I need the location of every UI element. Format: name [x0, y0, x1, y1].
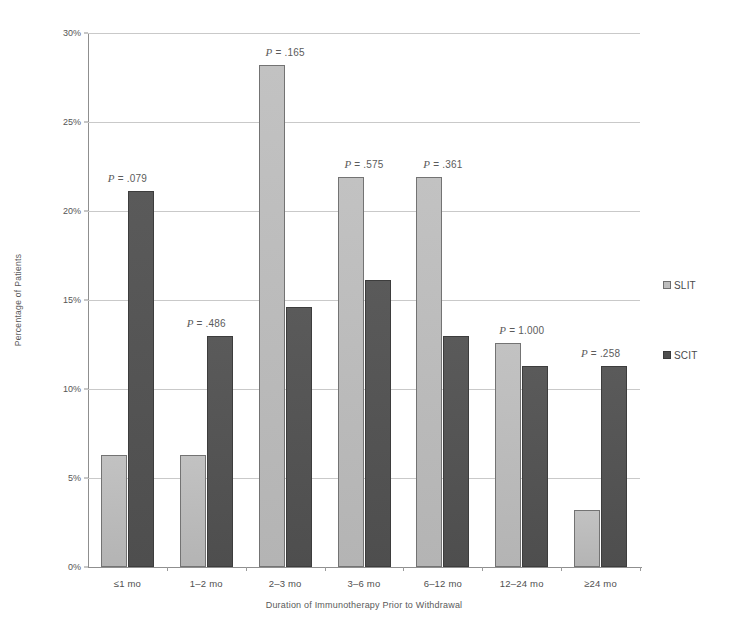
legend-swatch-icon: [663, 351, 671, 359]
p-symbol: P: [344, 158, 351, 170]
legend-label: SCIT: [674, 350, 698, 361]
x-axis-tick-mark: [640, 567, 641, 571]
p-symbol: P: [581, 347, 588, 359]
x-axis-tick-mark: [246, 567, 247, 571]
p-value-label: P = 1.000: [499, 324, 544, 336]
p-symbol: P: [108, 172, 115, 184]
legend-label: SLIT: [674, 280, 696, 291]
x-axis-tick-label: ≤1 mo: [114, 578, 141, 589]
bar-slit: [416, 177, 442, 567]
p-value-label: P = .575: [344, 158, 383, 170]
bar-group: [495, 33, 548, 567]
y-axis-tick-label: 20%: [63, 206, 81, 216]
bar-slit: [259, 65, 285, 567]
x-axis-tick-mark: [482, 567, 483, 571]
p-symbol: P: [266, 46, 273, 58]
p-value-label: P = .258: [581, 347, 620, 359]
bar-group: [338, 33, 391, 567]
x-axis-tick-mark: [561, 567, 562, 571]
legend-swatch-icon: [663, 281, 671, 289]
y-axis-tick-mark: [84, 478, 88, 479]
y-axis-tick-label: 30%: [63, 28, 81, 38]
x-axis-tick-label: 2–3 mo: [269, 578, 302, 589]
y-axis-tick-mark: [84, 300, 88, 301]
p-symbol: P: [187, 317, 194, 329]
bar-scit: [601, 366, 627, 567]
plot-area: 0%5%10%15%20%25%30%: [88, 33, 640, 567]
bar-group: [180, 33, 233, 567]
legend-item-slit[interactable]: SLIT: [663, 278, 739, 292]
bar-slit: [495, 343, 521, 567]
y-axis-tick-mark: [84, 389, 88, 390]
chart-legend: SLITSCIT: [663, 278, 739, 418]
bar-scit: [128, 191, 154, 567]
x-axis-tick-label: ≥24 mo: [584, 578, 617, 589]
y-axis-tick-label: 0%: [68, 562, 81, 572]
y-axis-tick-label: 25%: [63, 117, 81, 127]
y-axis-tick-label: 5%: [68, 473, 81, 483]
y-axis-tick-mark: [84, 122, 88, 123]
bar-slit: [180, 455, 206, 567]
y-axis-title: Percentage of Patients: [13, 254, 23, 347]
y-axis-tick-mark: [84, 211, 88, 212]
bar-scit: [365, 280, 391, 567]
x-axis-tick-mark: [167, 567, 168, 571]
p-value-label: P = .165: [266, 46, 305, 58]
bar-scit: [286, 307, 312, 567]
y-axis-tick-mark: [84, 567, 88, 568]
gridline: [88, 567, 640, 568]
bar-chart-figure: Percentage of Patients 0%5%10%15%20%25%3…: [0, 0, 742, 626]
x-axis-tick-label: 3–6 mo: [348, 578, 381, 589]
bar-scit: [522, 366, 548, 567]
bar-slit: [338, 177, 364, 567]
bar-group: [259, 33, 312, 567]
x-axis-tick-label: 12–24 mo: [500, 578, 544, 589]
p-symbol: P: [499, 324, 506, 336]
bar-scit: [207, 336, 233, 567]
x-axis-tick-label: 6–12 mo: [424, 578, 462, 589]
x-axis-title: Duration of Immunotherapy Prior to Withd…: [266, 600, 463, 610]
bar-group: [574, 33, 627, 567]
y-axis-tick-label: 10%: [63, 384, 81, 394]
x-axis-tick-mark: [403, 567, 404, 571]
y-axis-tick-label: 15%: [63, 295, 81, 305]
x-axis-tick-mark: [325, 567, 326, 571]
bar-group: [101, 33, 154, 567]
bar-slit: [574, 510, 600, 567]
x-axis-tick-label: 1–2 mo: [190, 578, 223, 589]
p-symbol: P: [423, 158, 430, 170]
legend-item-scit[interactable]: SCIT: [663, 348, 739, 362]
bar-scit: [443, 336, 469, 567]
p-value-label: P = .486: [187, 317, 226, 329]
y-axis-tick-mark: [84, 33, 88, 34]
p-value-label: P = .361: [423, 158, 462, 170]
bar-slit: [101, 455, 127, 567]
p-value-label: P = .079: [108, 172, 147, 184]
bar-group: [416, 33, 469, 567]
